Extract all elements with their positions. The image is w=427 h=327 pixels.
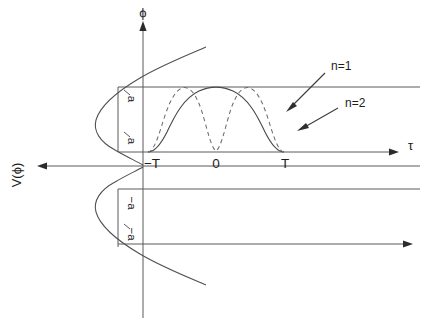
annotation-label-n1: n=1: [331, 59, 352, 73]
level-tick-upper-inner: [124, 132, 130, 137]
tau-axis-arrowhead: [389, 149, 399, 156]
tau-axis-label: τ: [408, 138, 414, 153]
potential-axis-label: V(ϕ): [9, 163, 24, 188]
phi-axis-arrowhead: [139, 21, 146, 31]
level-label-upper-outer: a: [126, 96, 138, 103]
pointer-head-n1: [286, 102, 297, 112]
pointer-line-n2: [303, 108, 338, 128]
level-label-lower-outer: −a: [126, 227, 138, 241]
instanton-curve-n1: [148, 87, 284, 152]
potential-curve-upper: [95, 47, 206, 165]
pointer-head-n2: [297, 123, 309, 131]
physics-diagram-svg: ϕ τ V(ϕ) −T 0 T a a −a −a n=1 n=2: [0, 0, 427, 327]
xtick-label-minus-T: −T: [144, 156, 160, 171]
annotation-label-n2: n=2: [345, 96, 366, 110]
level-label-lower-inner: −a: [126, 196, 138, 210]
level-label-upper-inner: a: [126, 138, 138, 145]
lower-axis-arrowhead: [403, 241, 413, 248]
xtick-label-zero: 0: [212, 156, 220, 171]
pointer-line-n1: [291, 73, 325, 107]
level-tick-upper-outer: [124, 90, 130, 95]
potential-curve-lower: [95, 167, 206, 285]
figure-root: ϕ τ V(ϕ) −T 0 T a a −a −a n=1 n=2: [0, 0, 427, 327]
xtick-label-T: T: [281, 156, 289, 171]
phi-axis-label: ϕ: [139, 5, 146, 20]
instanton-curve-n2: [148, 88, 284, 152]
potential-axis-arrowhead: [37, 163, 47, 170]
